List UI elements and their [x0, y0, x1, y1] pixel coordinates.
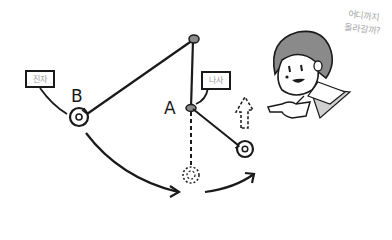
string-a-to-bob: [193, 109, 238, 145]
swing-arrow-right: [205, 174, 254, 192]
swing-arrow-left: [86, 133, 178, 192]
string-to-b: [87, 40, 193, 114]
up-arrow-dashed-icon: [236, 97, 253, 128]
point-label-b: B: [71, 86, 83, 106]
tag-pendulum: 진자: [25, 70, 55, 88]
pointing-hand: [268, 102, 310, 118]
tag-nail: 나사: [201, 71, 231, 90]
point-label-a: A: [164, 98, 176, 118]
face: [278, 54, 318, 95]
girl-character: [268, 31, 350, 118]
pivot-icon: [189, 35, 199, 43]
string-to-a: [191, 40, 193, 108]
bob-bottom-dashed-icon: [183, 167, 199, 183]
